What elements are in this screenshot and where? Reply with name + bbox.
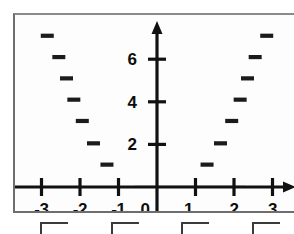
graph-svg <box>15 15 294 213</box>
x-tick-label--2: -2 <box>73 201 87 214</box>
x-tick-label-2: 2 <box>229 201 238 214</box>
y-tick-label-6: 6 <box>127 51 136 68</box>
y-tick-label-4: 4 <box>127 93 136 110</box>
answer-choices-cutoff <box>0 215 294 234</box>
x-tick-label--1: -1 <box>111 201 125 214</box>
x-tick-label-1: 1 <box>184 201 193 214</box>
x-tick-label--3: -3 <box>34 201 48 214</box>
y-axis-arrow-icon <box>152 21 163 34</box>
radical-glyph-icon <box>40 222 68 234</box>
axes-group <box>15 21 294 211</box>
radical-glyph-icon <box>111 222 139 234</box>
screenshot-root: -3-2-10123246 <box>0 0 294 234</box>
radical-glyph-icon <box>181 222 209 234</box>
x-axis-arrow-icon <box>283 182 294 193</box>
plot-panel: -3-2-10123246 <box>13 13 294 213</box>
radical-glyph-icon <box>252 222 280 234</box>
x-tick-label-3: 3 <box>268 201 277 214</box>
x-tick-label-0: 0 <box>140 201 149 214</box>
plot-area: -3-2-10123246 <box>15 15 294 213</box>
y-tick-label-2: 2 <box>127 136 136 153</box>
